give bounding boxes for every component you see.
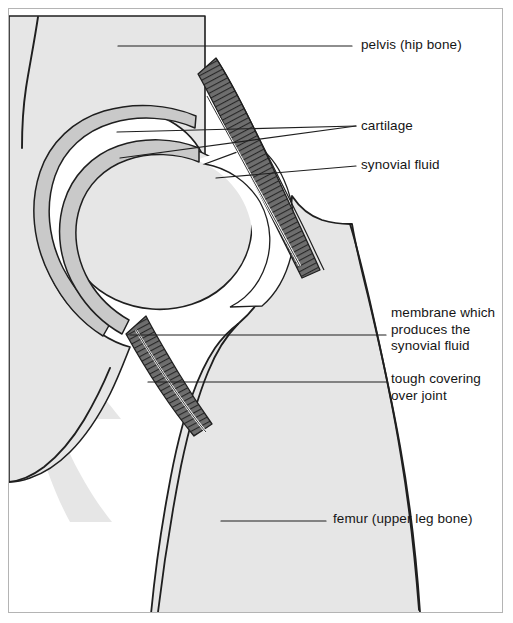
hip-joint-diagram: pelvis (hip bone) cartilage synovial flu… [0, 0, 513, 623]
label-cartilage: cartilage [361, 118, 413, 135]
label-joint-capsule: tough covering over joint [391, 371, 481, 404]
label-synovial-membrane: membrane which produces the synovial flu… [391, 305, 495, 355]
label-synovial-fluid: synovial fluid [361, 157, 440, 174]
label-femur: femur (upper leg bone) [333, 511, 473, 528]
label-pelvis: pelvis (hip bone) [361, 37, 462, 54]
